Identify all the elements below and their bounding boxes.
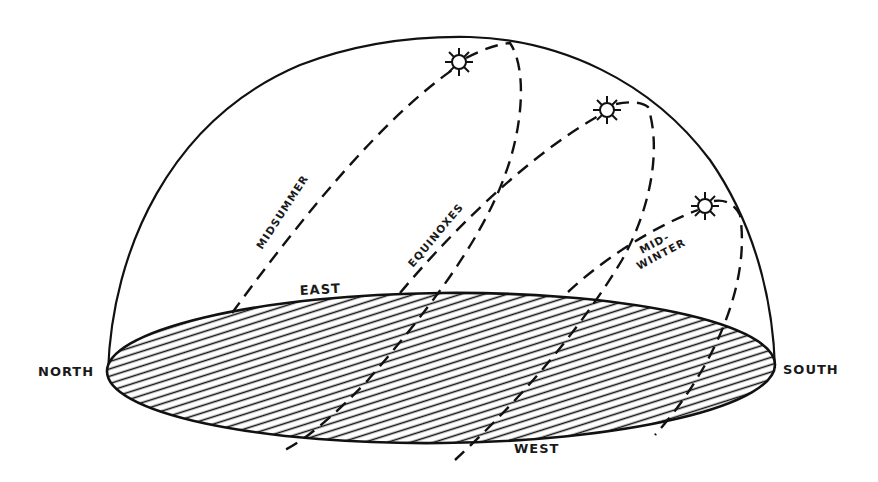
compass-north: NORTH (38, 364, 94, 379)
sun-icon (691, 192, 719, 220)
sun-icon (593, 96, 621, 124)
label-midsummer: MIDSUMMER (254, 172, 311, 251)
horizon-plane (106, 290, 776, 447)
compass-east: EAST (299, 281, 341, 298)
label-equinoxes: EQUINOXES (405, 201, 465, 270)
sun-path-diagram: MIDSUMMER EQUINOXES MID- WINTER NORTH SO… (0, 0, 878, 482)
compass-west: WEST (514, 441, 559, 456)
compass-south: SOUTH (783, 362, 839, 377)
sun-icon (445, 48, 473, 76)
